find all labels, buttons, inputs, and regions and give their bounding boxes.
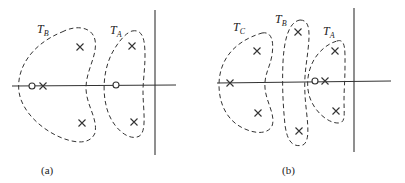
region-ta-contour-a xyxy=(104,31,145,138)
label-ta-a: TA xyxy=(110,23,122,39)
pole-cross-icon xyxy=(255,110,262,117)
label-ta-b: TA xyxy=(323,24,335,40)
pole-cross-icon xyxy=(131,119,138,126)
region-tb-contour-b xyxy=(283,20,309,146)
pole-cross-icon xyxy=(296,128,303,135)
pole-cross-icon xyxy=(322,78,329,85)
panel-b: TC TB TA (b) xyxy=(217,8,391,177)
pole-cross-icon xyxy=(77,44,84,51)
zero-circle-icon xyxy=(312,78,318,84)
label-tb-b: TB xyxy=(275,12,287,28)
pole-cross-icon xyxy=(129,43,136,50)
pole-cross-icon xyxy=(254,48,261,55)
pole-zero-diagram: TB TA (a) TC TB TA (b) xyxy=(0,0,405,183)
label-tb-a: TB xyxy=(37,22,49,38)
zero-circle-icon xyxy=(29,83,35,89)
pole-cross-icon xyxy=(332,48,339,55)
real-axis-a xyxy=(12,85,176,86)
label-tc-b: TC xyxy=(233,20,246,36)
pole-zero-marks-a xyxy=(29,43,138,127)
pole-cross-icon xyxy=(333,108,340,115)
caption-a: (a) xyxy=(41,164,54,177)
zero-circle-icon xyxy=(113,82,119,88)
real-axis-b xyxy=(217,81,391,83)
pole-cross-icon xyxy=(295,29,302,36)
panel-a: TB TA (a) xyxy=(12,10,176,177)
caption-b: (b) xyxy=(282,164,295,177)
pole-cross-icon xyxy=(79,120,86,127)
